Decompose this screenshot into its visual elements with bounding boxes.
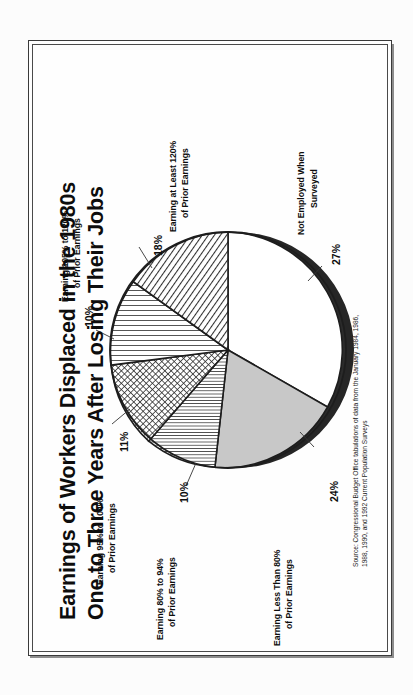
value-at-least-120: 18%: [152, 235, 164, 256]
label-not-employed-line1: Not Employed When: [296, 151, 308, 235]
label-105-120-line1: Earning 105% to 120%: [60, 211, 72, 302]
label-at-least-120-line2: of Prior Earnings: [180, 148, 192, 218]
source-note-line2: 1988, 1990, and 1992 Current Population …: [361, 420, 370, 567]
label-not-employed-line2: Surveyed: [309, 169, 321, 208]
label-105-120-line2: of Prior Earnings: [72, 218, 84, 288]
label-less-than-80-line2: of Prior Earnings: [284, 559, 296, 629]
figure-page: Earnings of Workers Displaced in the 198…: [0, 0, 413, 695]
value-less-than-80: 24%: [328, 481, 340, 502]
label-80-94-line2: of Prior Earnings: [167, 557, 179, 627]
text-layer: Earnings of Workers Displaced in the 198…: [0, 0, 413, 695]
value-105-120: 10%: [83, 306, 95, 327]
label-95-104-line2: of Prior Earnings: [107, 503, 119, 573]
value-80-94: 10%: [178, 482, 190, 503]
label-95-104-line1: Earning 95% to 104%: [95, 499, 107, 585]
value-not-employed: 27%: [330, 244, 342, 265]
label-80-94-line1: Earning 80% to 94%: [155, 558, 167, 640]
label-less-than-80-line1: Earning Less Than 80%: [272, 550, 284, 646]
source-note-line1: Source: Congressional Budget Office tabu…: [352, 315, 361, 567]
value-95-104: 11%: [118, 432, 130, 452]
label-at-least-120-line1: Earning at Least 120%: [168, 141, 180, 232]
